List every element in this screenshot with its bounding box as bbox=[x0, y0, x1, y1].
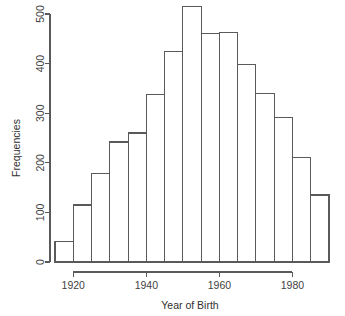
x-tick-label: 1980 bbox=[281, 279, 305, 291]
x-tick-labels: 1920194019601980 bbox=[62, 279, 305, 291]
y-tick-label: 300 bbox=[34, 104, 46, 122]
bar-series bbox=[55, 7, 329, 262]
y-tick-label: 500 bbox=[34, 5, 46, 23]
y-tick-label: 0 bbox=[34, 259, 46, 265]
histogram-bar bbox=[274, 118, 292, 262]
histogram-bar bbox=[238, 65, 256, 262]
y-tick-label: 200 bbox=[34, 154, 46, 172]
y-tick-label: 100 bbox=[34, 203, 46, 221]
x-tick-label: 1940 bbox=[135, 279, 159, 291]
y-axis-title: Frequencies bbox=[10, 119, 22, 177]
histogram-bar bbox=[146, 95, 164, 262]
x-axis bbox=[73, 272, 292, 277]
x-tick-label: 1960 bbox=[208, 279, 232, 291]
y-tick-label: 400 bbox=[34, 55, 46, 73]
y-tick-labels: 0100200300400500 bbox=[34, 5, 46, 265]
x-axis-title: Year of Birth bbox=[161, 299, 219, 311]
histogram-bar bbox=[311, 195, 329, 262]
histogram-figure: 0100200300400500 1920194019601980 Freque… bbox=[0, 0, 345, 316]
y-axis bbox=[45, 14, 50, 262]
histogram-bar bbox=[128, 133, 146, 262]
x-tick-label: 1920 bbox=[62, 279, 86, 291]
histogram-bar bbox=[73, 205, 91, 262]
histogram-bar bbox=[292, 158, 310, 262]
histogram-bar bbox=[92, 174, 110, 262]
histogram-bar bbox=[219, 33, 237, 262]
histogram-bar bbox=[55, 241, 73, 262]
histogram-bar bbox=[256, 93, 274, 262]
histogram-bar bbox=[183, 7, 201, 262]
histogram-bar bbox=[165, 51, 183, 262]
histogram-bar bbox=[201, 34, 219, 262]
histogram-bar bbox=[110, 142, 128, 262]
chart-canvas: 0100200300400500 1920194019601980 Freque… bbox=[0, 0, 345, 316]
